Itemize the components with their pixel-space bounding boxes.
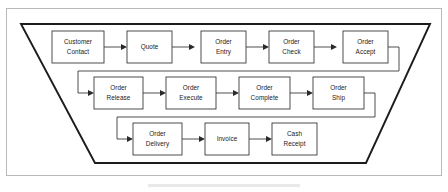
node-order-ship[interactable]: Order Ship <box>313 77 364 109</box>
node-customer-contact[interactable]: Customer Contact <box>52 31 104 63</box>
node-order-check[interactable]: Order Check <box>269 31 314 63</box>
node-order-entry-line1: Order <box>215 38 232 45</box>
node-order-entry-line2: Entry <box>216 48 232 56</box>
node-order-check-line2: Check <box>282 48 301 55</box>
node-order-execute-line1: Order <box>183 84 200 91</box>
process-flow-diagram: Customer Contact Quote Order Entry Order… <box>0 0 448 192</box>
node-cash-receipt-line2: Receipt <box>283 140 305 148</box>
node-order-ship-line2: Ship <box>332 94 345 102</box>
scan-artifact <box>148 184 300 187</box>
node-invoice-line1: Invoice <box>217 135 238 142</box>
node-cash-receipt-line1: Cash <box>287 130 303 137</box>
node-order-release-line2: Release <box>107 94 131 101</box>
node-order-delivery-line1: Order <box>149 130 166 137</box>
node-customer-contact-line1: Customer <box>64 38 93 45</box>
node-quote-line1: Quote <box>141 43 159 51</box>
node-cash-receipt[interactable]: Cash Receipt <box>272 123 317 155</box>
node-order-release-line1: Order <box>110 84 127 91</box>
connector-customer-contact-to-quote <box>104 44 127 50</box>
node-order-execute[interactable]: Order Execute <box>166 77 216 109</box>
node-order-complete-line2: Complete <box>251 94 279 102</box>
connector-order-release-to-order-execute <box>143 90 166 96</box>
connector-quote-to-order-entry <box>172 44 195 50</box>
connector-order-check-to-order-accept <box>314 44 337 50</box>
node-order-accept-line1: Order <box>357 38 374 45</box>
node-order-accept[interactable]: Order Accept <box>343 31 388 63</box>
node-invoice[interactable]: Invoice <box>205 123 249 155</box>
connector-order-execute-to-order-complete <box>216 90 239 96</box>
node-customer-contact-line2: Contact <box>67 48 90 55</box>
node-order-complete-line1: Order <box>256 84 273 91</box>
node-order-delivery[interactable]: Order Delivery <box>133 123 182 155</box>
connector-invoice-to-cash-receipt <box>249 136 272 142</box>
node-order-delivery-line2: Delivery <box>146 140 170 148</box>
figure-root: Customer Contact Quote Order Entry Order… <box>0 0 448 192</box>
node-order-ship-line1: Order <box>330 84 347 91</box>
node-order-accept-line2: Accept <box>356 48 376 56</box>
node-order-execute-line2: Execute <box>179 94 203 101</box>
node-order-entry[interactable]: Order Entry <box>201 31 246 63</box>
connector-order-complete-to-order-ship <box>290 90 313 96</box>
connector-order-delivery-to-invoice <box>182 136 205 142</box>
node-order-check-line1: Order <box>283 38 300 45</box>
node-order-release[interactable]: Order Release <box>94 77 143 109</box>
node-order-complete[interactable]: Order Complete <box>239 77 290 109</box>
node-quote[interactable]: Quote <box>127 31 172 63</box>
connector-order-entry-to-order-check <box>246 44 269 50</box>
